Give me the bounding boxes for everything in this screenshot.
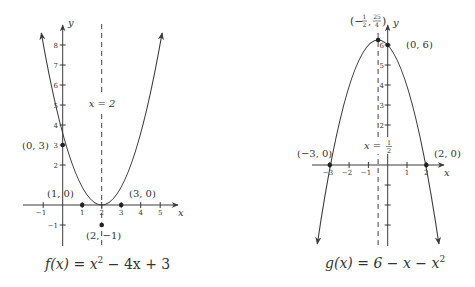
svg-text:5: 5: [158, 209, 162, 217]
svg-text:3: 3: [119, 209, 123, 217]
svg-text:2: 2: [380, 122, 384, 130]
svg-text:3: 3: [54, 142, 58, 150]
svg-text:1: 1: [387, 139, 391, 147]
graph-f: −1 1 2 3 4 5 8 7 6 5 4 3 2 −1 y: [22, 17, 184, 272]
svg-text:2: 2: [363, 21, 367, 28]
svg-text:6: 6: [54, 82, 59, 90]
svg-text:(0, 3): (0, 3): [22, 140, 49, 151]
point-labels: (0, 3) (1, 0) (3, 0) (2, −1): [22, 140, 156, 241]
svg-text:2: 2: [387, 147, 391, 155]
svg-text:4: 4: [54, 122, 59, 130]
point-0-3: [60, 143, 65, 148]
svg-text:(3, 0): (3, 0): [129, 188, 156, 199]
svg-text:−1: −1: [36, 209, 46, 217]
caption-f: f(x) = x2 − 4x + 3: [44, 255, 170, 272]
svg-text:−1: −1: [361, 169, 371, 177]
svg-text:5: 5: [380, 62, 384, 70]
point-2-0: [424, 163, 429, 168]
svg-text:3: 3: [380, 102, 384, 110]
svg-text:1: 1: [80, 209, 84, 217]
figure: −1 1 2 3 4 5 8 7 6 5 4 3 2 −1 y: [0, 0, 475, 287]
svg-text:4: 4: [138, 209, 143, 217]
svg-text:(0, 6): (0, 6): [406, 39, 433, 50]
svg-text:−2: −2: [342, 169, 352, 177]
graphs-canvas: −1 1 2 3 4 5 8 7 6 5 4 3 2 −1 y: [0, 0, 475, 287]
point-3-0: [119, 203, 124, 208]
svg-text:−1: −1: [48, 222, 58, 230]
svg-text:4: 4: [380, 82, 385, 90]
y-tick-labels: 8 7 6 5 4 3 2 −1: [48, 42, 59, 230]
svg-text:(−3, 0): (−3, 0): [297, 148, 332, 159]
svg-text:(−: (−: [350, 15, 364, 28]
svg-text:25: 25: [373, 13, 381, 20]
svg-text:,: ,: [368, 16, 371, 27]
svg-text:1: 1: [405, 169, 409, 177]
y-tick-labels: 6 5 4 3 2: [380, 42, 385, 130]
svg-text:): ): [382, 15, 386, 28]
graph-g: −3 −2 −1 1 2 6 5 4 3 2 y x: [297, 13, 461, 271]
point-neg3-0: [328, 163, 333, 168]
y-axis-label: y: [67, 17, 74, 28]
x-tick-labels: −3 −2 −1 1 2: [323, 169, 429, 177]
symmetry-label: x = 2: [89, 98, 116, 109]
svg-text:1: 1: [363, 13, 367, 20]
point-vertex: [376, 38, 381, 43]
x-axis-label: x: [444, 167, 450, 178]
point-0-6: [385, 43, 390, 48]
point-1-0: [80, 203, 85, 208]
x-axis-label: x: [178, 207, 184, 218]
svg-text:7: 7: [54, 62, 58, 70]
svg-text:(2, −1): (2, −1): [86, 230, 121, 241]
y-axis-label: y: [392, 17, 399, 28]
svg-text:x =: x =: [364, 140, 381, 151]
svg-text:(1, 0): (1, 0): [47, 188, 74, 199]
caption-g: g(x) = 6 − x − x2: [325, 254, 445, 271]
x-tick-labels: −1 1 2 3 4 5: [36, 209, 163, 217]
svg-text:2: 2: [54, 162, 58, 170]
svg-text:4: 4: [375, 21, 379, 28]
point-vertex: [99, 223, 104, 228]
vertex-label: (− 1 2 , 25 4 ): [350, 13, 386, 28]
svg-text:(2, 0): (2, 0): [434, 148, 461, 159]
svg-text:6: 6: [380, 42, 385, 50]
svg-text:8: 8: [54, 42, 58, 50]
